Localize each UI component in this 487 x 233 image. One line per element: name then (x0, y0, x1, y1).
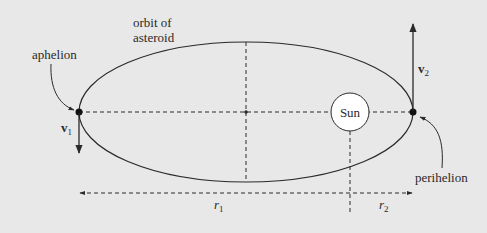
r1-label: r1 (214, 197, 224, 214)
orbit-label-line2: asteroid (133, 30, 175, 45)
perihelion-label: perihelion (415, 170, 468, 185)
sun: Sun (331, 93, 369, 131)
r2-label: r2 (379, 197, 389, 214)
sun-label: Sun (340, 105, 361, 120)
aphelion-label: aphelion (32, 47, 77, 62)
aphelion-pointer (51, 64, 74, 110)
v1-label: v1 (61, 120, 72, 137)
perihelion-pointer (420, 117, 442, 168)
v2-label: v2 (418, 61, 429, 78)
orbit-label-line1: orbit of (133, 15, 172, 30)
orbit-diagram: Sun v1 v2 orbit of asteroid aphelion per… (0, 0, 487, 233)
ellipse-center-dot (244, 110, 248, 114)
